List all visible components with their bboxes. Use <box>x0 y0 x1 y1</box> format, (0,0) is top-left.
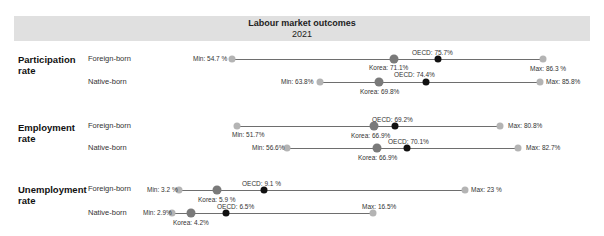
min-marker <box>317 79 324 86</box>
range-line <box>179 190 465 191</box>
range-line <box>172 213 373 214</box>
max-label: Max: 85.8% <box>546 78 580 85</box>
korea-marker <box>373 144 382 153</box>
chart-header: Labour market outcomes 2021 <box>14 16 590 41</box>
range-line <box>287 148 518 149</box>
oecd-marker <box>261 187 268 194</box>
korea-marker <box>375 78 384 87</box>
max-label: Max: 80.8% <box>508 122 542 129</box>
korea-label: Korea: 69.8% <box>360 88 399 95</box>
min-marker <box>234 123 241 130</box>
min-label: Min: 3.2 % <box>147 186 178 193</box>
group-label-native-born: Native-born <box>88 77 127 86</box>
indicator-unemployment-rate: Unemployment rate <box>18 184 87 206</box>
indicator-label-line1: Unemployment <box>18 184 87 195</box>
max-marker <box>540 56 547 63</box>
max-marker <box>537 79 544 86</box>
range-line <box>237 126 500 127</box>
max-marker <box>497 123 504 130</box>
korea-label: Korea: 71.1% <box>369 64 408 71</box>
korea-label: Korea: 5.9 % <box>198 196 236 203</box>
indicator-label-line2: rate <box>18 65 76 76</box>
range-line <box>320 82 540 83</box>
min-label: Min: 54.7 % <box>193 55 227 62</box>
indicator-label-line2: rate <box>18 133 75 144</box>
oecd-marker <box>404 145 411 152</box>
korea-marker <box>187 209 196 218</box>
max-label: Max: 16.5% <box>362 203 396 210</box>
range-line <box>232 59 543 60</box>
oecd-label: OECD: 69.2% <box>372 116 413 123</box>
group-label-native-born: Native-born <box>88 143 127 152</box>
indicator-label-line1: Participation <box>18 54 76 65</box>
max-label: Max: 23 % <box>471 186 502 193</box>
group-label-native-born: Native-born <box>88 208 127 217</box>
min-label: Min: 2.9% <box>143 209 172 216</box>
korea-label: Korea: 4.2% <box>173 219 209 226</box>
oecd-marker <box>423 79 430 86</box>
chart-year: 2021 <box>14 29 590 40</box>
max-marker <box>462 187 469 194</box>
min-label: Min: 63.8% <box>281 78 314 85</box>
oecd-label: OECD: 6.5% <box>217 203 254 210</box>
group-label-foreign-born: Foreign-born <box>88 54 131 63</box>
korea-label: Korea: 66.9% <box>351 132 390 139</box>
group-label-foreign-born: Foreign-born <box>88 184 131 193</box>
max-label: Max: 82.7% <box>526 144 560 151</box>
max-marker <box>370 210 377 217</box>
korea-label: Korea: 66.9% <box>358 154 397 161</box>
max-label: Max: 86.3 % <box>530 65 566 72</box>
oecd-label: OECD: 74.4% <box>394 71 435 78</box>
korea-marker <box>390 55 399 64</box>
oecd-marker <box>223 210 230 217</box>
min-label: Min: 56.6% <box>252 144 285 151</box>
oecd-label: OECD: 75.7% <box>412 49 453 56</box>
group-label-foreign-born: Foreign-born <box>88 121 131 130</box>
oecd-label: OECD: 9.1 % <box>242 180 281 187</box>
max-marker <box>515 145 522 152</box>
chart-title: Labour market outcomes <box>14 18 590 29</box>
oecd-marker <box>392 123 399 130</box>
min-marker <box>229 56 236 63</box>
oecd-marker <box>435 56 442 63</box>
indicator-employment-rate: Employment rate <box>18 122 75 144</box>
oecd-label: OECD: 70.1% <box>388 138 429 145</box>
indicator-participation-rate: Participation rate <box>18 54 76 76</box>
min-label: Min: 51.7% <box>232 131 265 138</box>
korea-marker <box>213 186 222 195</box>
indicator-label-line2: rate <box>18 195 87 206</box>
indicator-label-line1: Employment <box>18 122 75 133</box>
